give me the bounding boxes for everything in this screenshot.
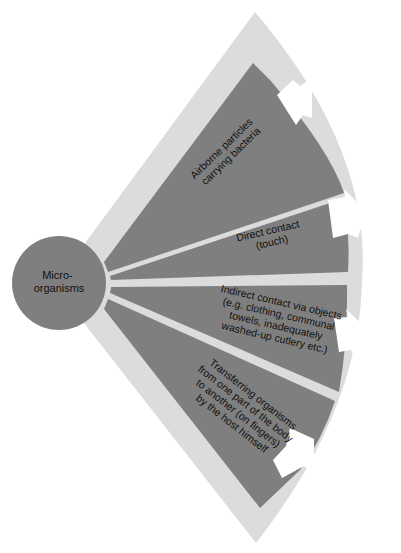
transmission-diagram: Micro- organisms Airborne particles carr… [0, 0, 401, 553]
